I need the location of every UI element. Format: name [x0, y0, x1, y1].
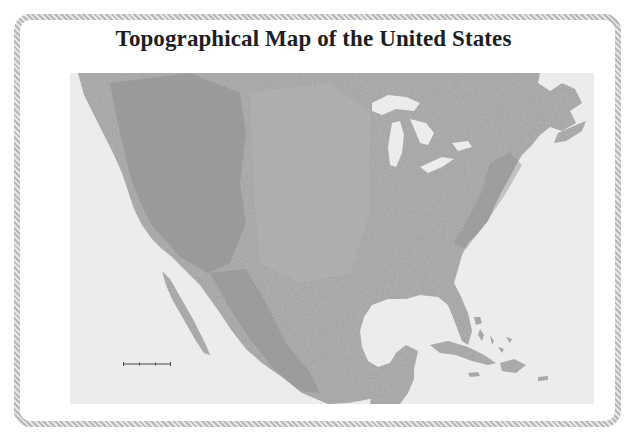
plains-light [250, 83, 370, 283]
scale-bar [123, 362, 171, 366]
map-canvas [70, 73, 594, 404]
topographic-map [70, 73, 594, 404]
page-title: Topographical Map of the United States [0, 26, 627, 52]
